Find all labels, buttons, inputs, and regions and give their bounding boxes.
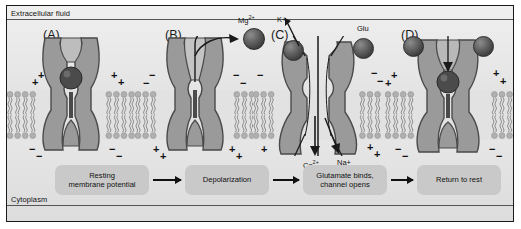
- charge-outer-c-3: −: [377, 76, 383, 87]
- charge-outer-d-1: +: [391, 70, 397, 81]
- magnesium-exit-arrow: [193, 30, 249, 60]
- charge-outer-a-4: +: [118, 77, 124, 88]
- charge-inner-d-3: −: [489, 144, 495, 155]
- flow-arrow-2: [273, 179, 299, 181]
- glutamate-sphere-d-left: [403, 36, 424, 57]
- charge-outer-b-3: −: [233, 70, 239, 81]
- charge-outer-c-1: −: [257, 70, 263, 81]
- panel-d: (D) + + + + − − − −: [385, 6, 514, 171]
- glutamate-label: Glu: [357, 24, 369, 33]
- charge-inner-a-4: −: [116, 151, 122, 162]
- panel-c: (C) K+ Glu C: [253, 6, 385, 171]
- charge-inner-d-1: −: [395, 144, 401, 155]
- charge-inner-d-4: −: [496, 151, 502, 162]
- flow-arrow-3: [391, 179, 413, 181]
- state-flowchart: Restingmembrane potential Depolarization…: [7, 165, 513, 203]
- charge-inner-b-2: +: [160, 151, 166, 162]
- charge-inner-c-2: +: [367, 142, 373, 153]
- cation-influx-arrows: [303, 116, 363, 161]
- charge-inner-c-1: +: [261, 144, 267, 155]
- flow-step-glutamate-binds[interactable]: Glutamate binds,channel opens: [303, 165, 387, 195]
- glutamate-sphere-d-right: [473, 36, 494, 57]
- charge-inner-a-1: −: [29, 144, 35, 155]
- charge-outer-b-2: −: [143, 78, 149, 89]
- nmda-receptor-a: [37, 36, 105, 152]
- charge-inner-a-2: −: [36, 151, 42, 162]
- charge-outer-d-2: +: [385, 78, 391, 89]
- cytoplasm-divider: [7, 205, 513, 206]
- charge-inner-c-3: +: [374, 149, 380, 160]
- charge-outer-a-1: +: [38, 70, 44, 81]
- glutamate-sphere-c-right: [353, 38, 374, 59]
- potassium-efflux-arrow: [283, 14, 323, 50]
- charge-inner-d-2: −: [402, 151, 408, 162]
- charge-outer-d-4: +: [500, 76, 506, 87]
- charge-inner-b-4: +: [236, 151, 242, 162]
- charge-outer-a-2: +: [32, 77, 38, 88]
- charge-outer-d-3: +: [493, 68, 499, 79]
- charge-outer-b-1: −: [149, 70, 155, 81]
- panel-a: (A) + + + + − − − −: [7, 6, 135, 171]
- flow-arrow-1: [153, 179, 181, 181]
- charge-inner-b-1: +: [153, 144, 159, 155]
- potassium-label: K+: [277, 15, 286, 24]
- flow-step-depolarization[interactable]: Depolarization: [185, 165, 269, 195]
- charge-outer-b-4: −: [240, 78, 246, 89]
- flow-step-return-to-rest[interactable]: Return to rest: [417, 165, 501, 195]
- charge-outer-a-3: +: [111, 70, 117, 81]
- figure-panel: Extracellular fluid Cytoplasm (A) + + + …: [6, 5, 514, 222]
- magnesium-label: Mg2+: [238, 14, 255, 25]
- flow-step-resting[interactable]: Restingmembrane potential: [55, 165, 149, 195]
- charge-inner-b-3: +: [229, 144, 235, 155]
- charge-inner-a-3: −: [109, 144, 115, 155]
- nmda-receptor-d: [411, 36, 485, 154]
